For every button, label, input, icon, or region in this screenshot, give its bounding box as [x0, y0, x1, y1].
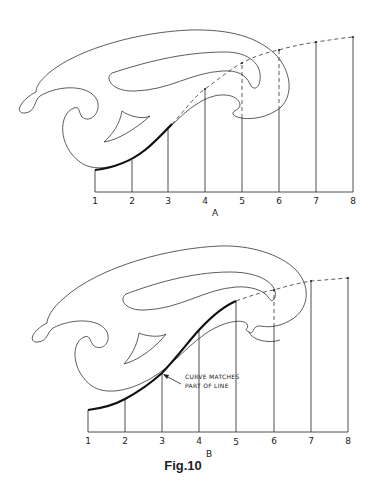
panel-b: CURVE MATCHES PART OF LINE 1 2 3 4 5 6 7…	[32, 246, 351, 459]
panel-a: 1 2 3 4 5 6 7 8 A	[19, 30, 356, 218]
tick-label-b-3: 3	[159, 436, 165, 446]
annotation-arrow	[163, 374, 181, 384]
panel-label-b: B	[206, 449, 212, 459]
annotation-line-1: CURVE MATCHES	[185, 373, 240, 380]
matched-curve-a	[95, 124, 172, 170]
french-curve-diagram: 1 2 3 4 5 6 7 8 A	[0, 0, 375, 497]
tick-label-b-1: 1	[85, 436, 91, 446]
template-slot-b	[123, 272, 275, 310]
french-curve-template-b-hook	[249, 332, 280, 342]
tick-label-b-5: 5	[233, 437, 239, 447]
template-cutout-a	[104, 111, 150, 142]
template-cutout-b	[124, 333, 166, 364]
tick-label-a-3: 3	[165, 196, 171, 206]
unmatched-line-a	[172, 37, 353, 124]
panel-label-a: A	[212, 208, 219, 218]
french-curve-template-a	[19, 30, 289, 168]
tick-label-b-2: 2	[122, 436, 128, 446]
tick-label-b-6: 6	[271, 436, 277, 446]
unmatched-line-b	[236, 278, 348, 301]
template-slot-a	[109, 52, 260, 91]
tick-label-a-2: 2	[129, 196, 135, 206]
tick-label-a-5: 5	[239, 196, 245, 206]
annotation-line-2: PART OF LINE	[185, 382, 229, 389]
tick-label-a-8: 8	[350, 196, 356, 206]
tick-label-b-4: 4	[196, 436, 202, 446]
tick-label-a-6: 6	[276, 196, 282, 206]
tick-label-a-4: 4	[202, 196, 208, 206]
tick-label-a-7: 7	[313, 196, 319, 206]
french-curve-template-b	[32, 246, 306, 391]
figure-caption: Fig.10	[164, 458, 202, 473]
tick-label-b-8: 8	[345, 436, 351, 446]
tick-label-a-1: 1	[92, 196, 98, 206]
tick-label-b-7: 7	[308, 436, 314, 446]
